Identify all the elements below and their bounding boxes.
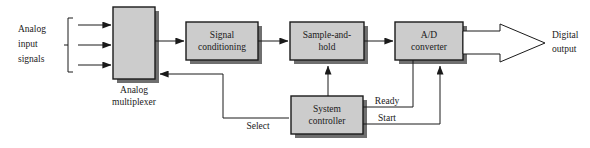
- digital-output-label-line2: output: [552, 44, 577, 54]
- digital-output-label-line1: Digital: [552, 30, 579, 40]
- analog-input-bracket: [64, 18, 73, 72]
- block-sample-and-hold[interactable]: Sample-and- hold: [290, 22, 368, 64]
- select-label: Select: [246, 121, 270, 131]
- system-controller-label-line2: controller: [309, 116, 347, 126]
- analog-input-label-line1: Analog: [18, 24, 46, 34]
- block-signal-conditioning[interactable]: Signal conditioning: [186, 22, 262, 64]
- analog-input-arrows: [78, 25, 111, 65]
- analog-input-label-line2: input: [18, 39, 38, 49]
- diagram-canvas: Signal conditioning Sample-and- hold A/D…: [0, 0, 590, 148]
- sample-and-hold-label-line1: Sample-and-: [303, 30, 352, 40]
- ready-label: Ready: [375, 96, 400, 106]
- signal-conditioning-label-line2: conditioning: [198, 42, 246, 52]
- analog-multiplexer-caption-line2: multiplexer: [112, 97, 157, 107]
- analog-multiplexer-caption-line1: Analog: [120, 85, 148, 95]
- wire-start: [363, 66, 440, 124]
- block-ad-converter[interactable]: A/D converter: [395, 22, 467, 64]
- ad-converter-label-line1: A/D: [421, 30, 438, 40]
- digital-output-arrow: [463, 24, 545, 62]
- ad-converter-label-line2: converter: [411, 42, 448, 52]
- sample-and-hold-label-line2: hold: [319, 42, 336, 52]
- start-label: Start: [378, 113, 396, 123]
- signal-conditioning-label-line1: Signal: [210, 30, 235, 40]
- block-system-controller[interactable]: System controller: [291, 96, 367, 138]
- analog-input-label-line3: signals: [18, 54, 45, 64]
- block-analog-multiplexer[interactable]: [113, 7, 159, 83]
- block-diagram: Signal conditioning Sample-and- hold A/D…: [0, 0, 590, 148]
- wire-select: [160, 74, 289, 118]
- system-controller-label-line1: System: [313, 104, 342, 114]
